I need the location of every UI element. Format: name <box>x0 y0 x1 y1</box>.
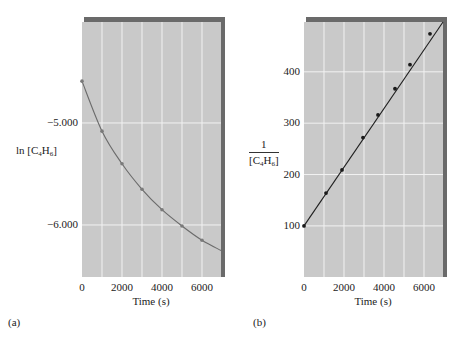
plot-shadow-right <box>443 17 447 277</box>
xtick-b-2: 4000 <box>373 282 395 293</box>
panel-label-b: (b) <box>253 317 266 328</box>
ytick-b-100: 100 <box>284 220 301 231</box>
xtick-b-0: 0 <box>301 282 307 293</box>
ylabel-b-numerator: 1 <box>249 138 279 153</box>
ylabel-b-denominator: [C4H6] <box>249 153 279 167</box>
ytick-b-400: 400 <box>284 66 301 77</box>
ylabel-b: 1 [C4H6] <box>249 138 279 166</box>
xtick-b-1: 2000 <box>333 282 355 293</box>
ytick-b-200: 200 <box>284 169 301 180</box>
data-point <box>340 168 344 172</box>
plot-background <box>304 22 443 277</box>
plot-b <box>0 0 467 300</box>
ylabel-b-prefix: [C <box>249 154 260 166</box>
data-point <box>393 87 397 91</box>
plot-shadow-top <box>306 17 447 22</box>
ylabel-b-suffix: ] <box>275 154 279 166</box>
data-point <box>428 32 432 36</box>
panel-b: 400 300 200 100 1 [C4H6] 0 2000 4000 600… <box>0 0 467 343</box>
data-point <box>408 63 412 67</box>
xtick-b-3: 6000 <box>413 282 435 293</box>
data-point <box>324 191 328 195</box>
data-point <box>361 136 365 140</box>
data-point <box>302 224 306 228</box>
ytick-b-300: 300 <box>284 117 301 128</box>
data-point <box>376 113 380 117</box>
xlabel-b: Time (s) <box>354 296 391 307</box>
